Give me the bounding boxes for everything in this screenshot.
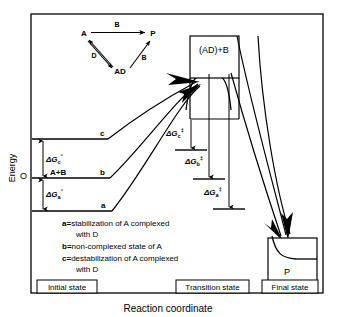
energy-level-b-state-text: A+B — [50, 168, 66, 177]
transition-state-label: (AD)+B — [199, 45, 229, 55]
stage-labels: Initial state Transition state Final sta… — [37, 280, 318, 293]
scheme-label-A: A — [81, 29, 87, 38]
delta-g-c-act-sub: c — [178, 133, 181, 139]
energy-diagram-figure: Energy O Reaction coordinate A P AD P (h… — [0, 0, 337, 317]
scheme-label-P: P — [150, 29, 156, 38]
legend-item-c-cont: with D — [75, 265, 98, 274]
energy-level-b-label: b — [100, 168, 105, 177]
delta-g-c-act-sup: ‡ — [181, 127, 184, 133]
transition-state-stage-label: Transition state — [185, 283, 240, 292]
legend-item-b-key: b= — [62, 242, 72, 251]
delta-g-c-sup: ° — [61, 153, 63, 159]
delta-g-c-initial-label: ΔGc° — [45, 153, 63, 165]
delta-g-b-act-symbol: ΔG — [184, 157, 197, 166]
legend-item-b: b=non-complexed state of A — [62, 242, 163, 251]
origin-label: O — [20, 171, 27, 181]
scheme-label-AD: AD — [114, 67, 126, 76]
legend-item-a-cont: with D — [75, 230, 98, 239]
legend-item-b-text: non-complexed state of A — [72, 242, 163, 251]
final-state-group: P — [268, 236, 317, 287]
y-axis-label: Energy — [7, 153, 17, 182]
svg-text:ΔGa°: ΔGa° — [45, 188, 63, 200]
svg-text:ΔGc°: ΔGc° — [45, 153, 63, 165]
final-state-stage-label: Final state — [272, 283, 309, 292]
legend-item-c-text: destabilization of A complexed — [71, 254, 178, 263]
delta-g-c-act-symbol: ΔG — [165, 129, 178, 138]
delta-g-a-act-symbol: ΔG — [203, 188, 216, 197]
delta-g-a-initial-label: ΔGa° — [45, 188, 63, 200]
energy-level-a-label: a — [101, 201, 106, 210]
legend-item-a: a=stabilization of A complexed — [62, 219, 169, 228]
legend-item-a-text: stabilization of A complexed — [71, 219, 169, 228]
reaction-energy-diagram-svg: Energy O Reaction coordinate A P AD P (h… — [0, 0, 337, 317]
delta-g-a-symbol: ΔG — [45, 190, 58, 199]
delta-g-a-act-sup: ‡ — [219, 186, 222, 192]
transition-state-label-box — [190, 36, 239, 78]
legend-item-c-key: c= — [62, 254, 71, 263]
scheme-arrow-right-label: B — [141, 54, 146, 61]
delta-g-b-act-sup: ‡ — [200, 155, 203, 161]
legend-item-c: c=destabilization of A complexed — [62, 254, 178, 263]
final-state-product-label: P — [284, 267, 290, 277]
initial-state-label: Initial state — [48, 283, 87, 292]
legend-item-a-key: a= — [62, 219, 71, 228]
delta-g-a-sup: ° — [61, 188, 63, 194]
x-axis-label: Reaction coordinate — [124, 303, 213, 314]
energy-level-c-label: c — [100, 129, 105, 138]
delta-g-c-symbol: ΔG — [45, 155, 58, 164]
scheme-arrow-left-label: D — [91, 52, 96, 59]
scheme-arrow-top-label: B — [114, 21, 119, 28]
delta-g-c-sub: c — [58, 159, 61, 165]
